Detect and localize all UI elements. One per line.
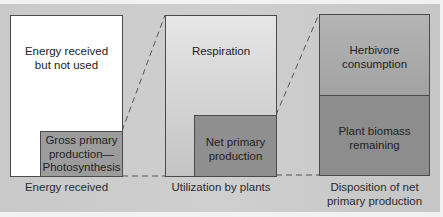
plant-biomass-box: Plant biomass remaining <box>319 95 430 176</box>
label-line: primary production <box>312 194 437 208</box>
label-line: Plant biomass <box>320 124 429 138</box>
net-primary-production-label: Net primary production <box>195 135 276 163</box>
net-primary-production-box: Net primary production <box>194 115 277 177</box>
label-line: Energy received <box>11 44 122 58</box>
label-line: Net primary <box>195 135 276 149</box>
respiration-label: Respiration <box>166 44 276 58</box>
label-line: but not used <box>11 58 122 72</box>
caption-energy-received: Energy received <box>10 180 123 194</box>
label-line: Gross primary <box>41 134 122 148</box>
caption-disposition: Disposition of net primary production <box>312 180 437 208</box>
caption-utilization: Utilization by plants <box>165 180 277 194</box>
label-line: production— <box>41 148 122 162</box>
label-line: production <box>195 149 276 163</box>
label-line: Herbivore <box>320 43 429 57</box>
label-line: remaining <box>320 138 429 152</box>
gross-primary-production-label: Gross primary production— Photosynthesis <box>41 134 122 175</box>
label-line: consumption <box>320 57 429 71</box>
herbivore-consumption-label: Herbivore consumption <box>320 43 429 71</box>
label-line: Photosynthesis <box>41 161 122 175</box>
label-line: Disposition of net <box>312 180 437 194</box>
gross-primary-production-box: Gross primary production— Photosynthesis <box>40 131 123 177</box>
herbivore-consumption-box: Herbivore consumption <box>319 14 430 96</box>
plant-biomass-label: Plant biomass remaining <box>320 124 429 152</box>
energy-not-used-label: Energy received but not used <box>11 44 122 72</box>
